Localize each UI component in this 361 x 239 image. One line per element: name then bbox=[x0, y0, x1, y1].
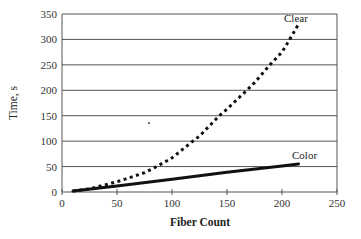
y-tick-label: 50 bbox=[46, 161, 58, 173]
series-label-clear: Clear bbox=[284, 12, 308, 24]
line-chart: 050100150200250300350 050100150200250 Cl… bbox=[0, 0, 361, 239]
y-axis-title: Time, s bbox=[7, 85, 20, 120]
y-tick-label: 250 bbox=[41, 59, 58, 71]
x-tick-label: 150 bbox=[219, 197, 236, 209]
x-tick-label: 0 bbox=[59, 197, 65, 209]
series-label-color: Color bbox=[292, 149, 317, 161]
x-tick-label: 200 bbox=[274, 197, 291, 209]
series-line-clear bbox=[73, 24, 299, 191]
y-tick-label: 0 bbox=[52, 186, 58, 198]
stray-marker bbox=[148, 122, 150, 124]
x-tick-label: 250 bbox=[329, 197, 346, 209]
y-tick-label: 100 bbox=[41, 135, 58, 147]
y-tick-label: 200 bbox=[41, 84, 58, 96]
series-line-color bbox=[73, 164, 299, 191]
x-tick-label: 50 bbox=[112, 197, 124, 209]
x-tick-label: 100 bbox=[164, 197, 181, 209]
y-axis-ticks: 050100150200250300350 bbox=[41, 8, 58, 198]
gridlines bbox=[62, 14, 337, 167]
y-tick-label: 350 bbox=[41, 8, 58, 20]
y-tick-label: 150 bbox=[41, 110, 58, 122]
series-lines bbox=[73, 24, 299, 191]
y-tick-label: 300 bbox=[41, 33, 58, 45]
x-axis-title: Fiber Count bbox=[170, 216, 230, 228]
